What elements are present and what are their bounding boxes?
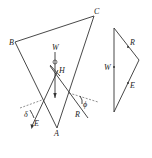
label-r: R <box>74 110 80 119</box>
force-label-e: E <box>129 81 135 90</box>
angle-arc-delta <box>30 110 34 118</box>
angle-arc-phi <box>80 96 82 104</box>
label-c: C <box>94 7 100 16</box>
w-vector-marker <box>113 66 115 68</box>
weight-arrowhead <box>53 93 56 98</box>
label-phi: ϕ <box>83 100 87 109</box>
force-line-r <box>50 66 88 118</box>
label-delta: δ <box>24 110 28 119</box>
r-vector-marker <box>127 46 129 48</box>
space-diagram: B C A W H E R δ ϕ <box>9 7 100 138</box>
force-line-e <box>32 70 58 126</box>
label-e: E <box>33 119 39 128</box>
force-triangle: W R E <box>104 28 139 112</box>
force-triangle-shape <box>114 28 139 112</box>
force-label-w: W <box>104 63 112 72</box>
label-h: H <box>58 66 66 75</box>
e-vector-marker <box>127 82 129 84</box>
label-b: B <box>9 38 14 47</box>
diagram-canvas: B C A W H E R δ ϕ W R E <box>0 0 152 158</box>
label-w: W <box>52 43 60 52</box>
normal-dash-left <box>20 100 42 108</box>
label-a: A <box>53 129 59 138</box>
force-label-r: R <box>129 38 135 47</box>
